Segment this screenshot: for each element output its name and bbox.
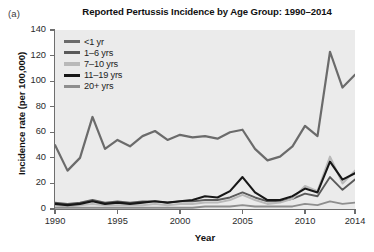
series-line — [55, 162, 355, 205]
panel-label: (a) — [8, 8, 20, 19]
y-tick-label: 60 — [0, 126, 46, 136]
y-tick-label: 20 — [0, 177, 46, 187]
x-tick — [179, 209, 180, 214]
legend-label: 1–6 yrs — [84, 48, 113, 58]
x-tick — [242, 209, 243, 214]
chart-figure: (a) Reported Pertussis Incidence by Age … — [0, 0, 374, 252]
x-tick — [304, 209, 305, 214]
y-tick-label: 40 — [0, 152, 46, 162]
y-tick-label: 0 — [0, 203, 46, 213]
y-tick-label: 140 — [0, 24, 46, 34]
x-tick-label: 1990 — [35, 216, 75, 226]
legend-swatch-icon — [64, 62, 80, 65]
x-axis-line — [54, 209, 355, 210]
legend-item[interactable]: 20+ yrs — [64, 81, 122, 92]
legend-swatch-icon — [64, 85, 80, 88]
y-tick-label: 100 — [0, 75, 46, 85]
legend-label: 7–10 yrs — [84, 59, 118, 69]
x-tick — [354, 209, 355, 214]
legend-label: 11–19 yrs — [84, 70, 122, 80]
x-tick-label: 2005 — [223, 216, 263, 226]
x-tick — [117, 209, 118, 214]
x-tick — [54, 209, 55, 214]
chart-title: Reported Pertussis Incidence by Age Grou… — [52, 6, 362, 17]
legend-item[interactable]: <1 yr — [64, 36, 122, 47]
x-tick-label: 1995 — [98, 216, 138, 226]
x-tick-label: 2014 — [335, 216, 374, 226]
x-axis-label: Year — [55, 232, 355, 243]
legend-label: 20+ yrs — [84, 81, 113, 91]
series-line — [55, 157, 355, 207]
legend-label: <1 yr — [84, 37, 104, 47]
x-tick-label: 2010 — [285, 216, 325, 226]
legend-item[interactable]: 1–6 yrs — [64, 47, 122, 58]
y-tick-label: 120 — [0, 50, 46, 60]
x-tick-label: 2000 — [160, 216, 200, 226]
legend-swatch-icon — [64, 40, 80, 43]
legend-swatch-icon — [64, 74, 80, 77]
legend-item[interactable]: 7–10 yrs — [64, 58, 122, 69]
chart-legend: <1 yr1–6 yrs7–10 yrs11–19 yrs20+ yrs — [64, 36, 122, 92]
legend-swatch-icon — [64, 51, 80, 54]
y-tick-label: 80 — [0, 101, 46, 111]
legend-item[interactable]: 11–19 yrs — [64, 70, 122, 81]
